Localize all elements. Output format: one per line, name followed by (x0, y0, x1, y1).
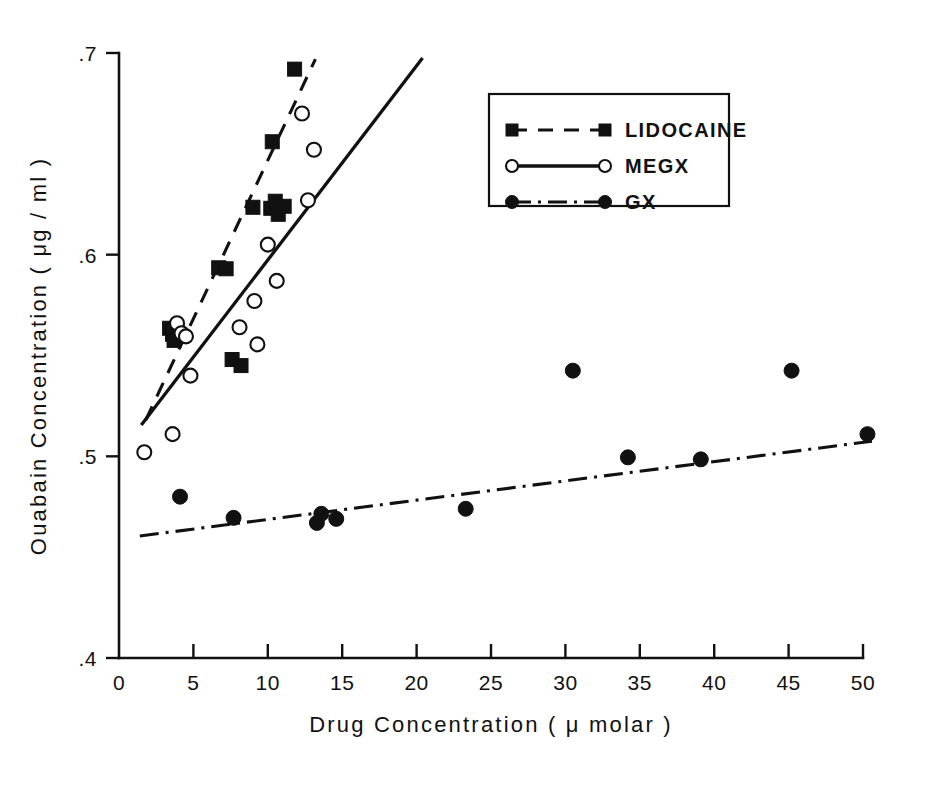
y-axis-ticks: .4.5.6.7 (78, 42, 119, 670)
x-tick-label: 30 (553, 671, 577, 694)
y-tick-label: .5 (78, 445, 97, 468)
data-point-megx (270, 274, 284, 288)
y-tick-label: .4 (78, 647, 97, 670)
legend-marker-gx (599, 196, 612, 209)
y-tick-label: .6 (78, 244, 97, 267)
data-point-gx (226, 510, 241, 525)
legend-marker-lidocaine (506, 124, 518, 136)
data-point-megx (183, 369, 197, 383)
x-tick-label: 15 (330, 671, 354, 694)
y-axis-title: Ouabain Concentration ( μg / ml ) (26, 157, 51, 555)
data-point-gx (458, 501, 473, 516)
plot-canvas: .4.5.6.7 05101520253035404550 LIDOCAINEM… (0, 0, 925, 806)
data-point-lidocaine (246, 200, 260, 214)
x-tick-label: 45 (776, 671, 800, 694)
x-axis-ticks: 05101520253035404550 (113, 644, 875, 694)
chart-legend: LIDOCAINEMEGXGX (489, 94, 748, 213)
data-point-lidocaine (288, 62, 302, 76)
data-point-megx (261, 238, 275, 252)
data-point-gx (314, 506, 329, 521)
data-point-megx (295, 107, 309, 121)
data-point-gx (693, 452, 708, 467)
y-tick-label: .7 (78, 42, 97, 65)
data-point-megx (250, 337, 264, 351)
data-point-lidocaine (234, 359, 248, 373)
fit-line-gx (140, 441, 872, 536)
data-point-lidocaine (219, 262, 233, 276)
x-axis-title: Drug Concentration ( μ molar ) (309, 712, 673, 737)
data-point-lidocaine (277, 199, 291, 213)
fit-line-megx (141, 58, 422, 425)
x-tick-label: 5 (187, 671, 199, 694)
legend-marker-megx (599, 160, 611, 172)
data-point-megx (301, 193, 315, 207)
data-point-megx (137, 445, 151, 459)
data-point-megx (247, 294, 261, 308)
data-point-megx (233, 320, 247, 334)
data-point-gx (329, 511, 344, 526)
legend-label-megx: MEGX (625, 155, 690, 177)
x-tick-label: 40 (702, 671, 726, 694)
legend-box (489, 94, 729, 206)
data-point-gx (860, 427, 875, 442)
legend-label-gx: GX (625, 191, 657, 213)
scatter-plot-figure: .4.5.6.7 05101520253035404550 LIDOCAINEM… (0, 0, 925, 806)
data-point-gx (784, 363, 799, 378)
data-point-megx (179, 329, 193, 343)
legend-marker-gx (506, 196, 519, 209)
x-tick-label: 10 (256, 671, 280, 694)
data-point-gx (620, 450, 635, 465)
data-point-megx (307, 143, 321, 157)
data-point-gx (565, 363, 580, 378)
data-point-lidocaine (265, 135, 279, 149)
x-tick-label: 25 (479, 671, 503, 694)
legend-marker-lidocaine (599, 124, 611, 136)
x-tick-label: 35 (628, 671, 652, 694)
x-tick-label: 50 (851, 671, 875, 694)
data-point-gx (173, 489, 188, 504)
legend-label-lidocaine: LIDOCAINE (625, 119, 748, 141)
legend-marker-megx (506, 160, 518, 172)
x-tick-label: 0 (113, 671, 125, 694)
data-point-megx (166, 427, 180, 441)
x-tick-label: 20 (404, 671, 428, 694)
